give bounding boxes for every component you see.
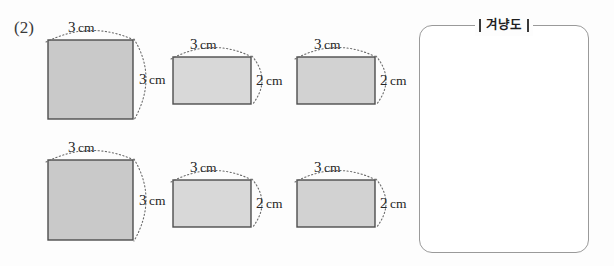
figure-5-top-unit: cm (200, 160, 217, 175)
figure-3-side-value: 2 (380, 72, 388, 88)
figure-1-top-value: 3 (68, 19, 76, 35)
figure-6-rectangle: 3 cm 2 cm (283, 158, 423, 253)
figure-2-top-value: 3 (190, 36, 198, 52)
figure-5-side-value: 2 (256, 195, 264, 211)
problem-number: (2) (14, 18, 34, 38)
figure-3-rectangle: 3 cm 2 cm (283, 35, 423, 130)
figure-6-shape (297, 180, 375, 227)
figure-5-shape (173, 180, 251, 227)
figure-2-top-unit: cm (200, 37, 217, 52)
figure-6-side-unit: cm (390, 196, 407, 211)
figure-2-shape (173, 57, 251, 104)
figure-1-top-unit: cm (78, 20, 95, 35)
worksheet-page: (2) 3 cm 3 cm 3 cm 2 cm 3 (0, 0, 614, 266)
figure-4-side-value: 3 (139, 192, 147, 208)
figure-1-shape (48, 40, 133, 119)
figure-6-side-value: 2 (380, 195, 388, 211)
figure-4-top-unit: cm (78, 140, 95, 155)
figure-2-side-value: 2 (256, 72, 264, 88)
figure-1-side-value: 3 (139, 71, 147, 87)
figure-6-top-unit: cm (324, 160, 341, 175)
figure-3-top-unit: cm (324, 37, 341, 52)
figure-3-shape (297, 57, 375, 104)
figure-5-side-unit: cm (266, 196, 283, 211)
figure-5-top-value: 3 (190, 159, 198, 175)
figure-5-rectangle: 3 cm 2 cm (159, 158, 299, 253)
answer-drawing-area[interactable] (419, 25, 589, 253)
figure-2-side-unit: cm (266, 73, 283, 88)
figure-4-shape (48, 160, 133, 240)
figure-3-side-unit: cm (390, 73, 407, 88)
figure-2-rectangle: 3 cm 2 cm (159, 35, 299, 130)
figure-6-top-value: 3 (314, 159, 322, 175)
figure-3-top-value: 3 (314, 36, 322, 52)
figure-4-top-value: 3 (68, 139, 76, 155)
